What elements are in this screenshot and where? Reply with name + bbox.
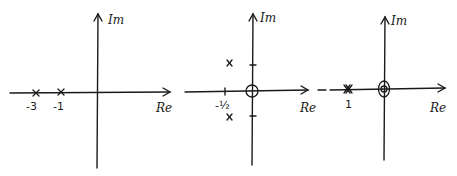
tick-label-neg3: -3 xyxy=(26,100,37,113)
imag-axis-label: Im xyxy=(390,14,407,28)
real-axis xyxy=(10,92,170,93)
real-axis-label: Re xyxy=(299,101,316,115)
pole-marker-icon xyxy=(227,114,232,120)
imag-axis xyxy=(252,14,253,165)
pole-marker-icon xyxy=(227,60,232,66)
imag-axis-label: Im xyxy=(107,13,124,27)
plot-1: Im Re -3 -1 xyxy=(10,13,172,168)
tick-label-neg1: -1 xyxy=(53,100,64,113)
tick-label-one: 1 xyxy=(345,98,352,111)
imag-axis-label: Im xyxy=(259,11,276,25)
tick-label-neg-half: -½ xyxy=(215,99,230,112)
pole-zero-figure: Im Re -3 -1 Im Re -½ xyxy=(0,0,457,176)
plot-3: Im Re 1 xyxy=(330,14,446,160)
real-axis-label: Re xyxy=(155,101,172,115)
plot-2: Im Re -½ xyxy=(185,11,326,165)
imag-axis xyxy=(384,17,385,160)
imag-axis xyxy=(97,14,98,168)
real-axis-label: Re xyxy=(429,101,446,115)
